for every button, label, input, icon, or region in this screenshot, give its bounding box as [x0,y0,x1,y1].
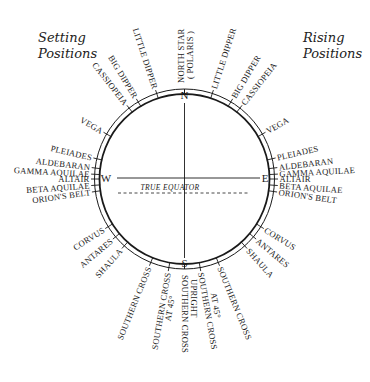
star-label: LITTLE DIPPER [209,27,238,91]
star-label: SOUTHERN CROSS [115,265,154,341]
star-tick [216,257,219,265]
star-tick [149,257,152,265]
star-tick [92,191,101,192]
star-tick [268,168,277,169]
star-tick [199,262,201,271]
star-tick [156,90,159,99]
star-tick [267,158,276,160]
east-letter: E [262,172,269,184]
star-tick [92,168,101,169]
star-tick [91,185,100,186]
star-tick [268,191,277,192]
star-label: VEGA [78,115,105,136]
upright-sublabel: UPRIGHT [189,279,199,318]
west-letter: W [101,172,112,184]
star-compass-diagram: Setting Positions Rising Positions N S W… [0,0,370,382]
star-label: LITTLE DIPPER [131,27,160,91]
star-label-group: VEGA [264,115,291,136]
south-upright-label-group: SOUTHERN CROSS UPRIGHT [180,275,199,353]
polaris-label: ( POLARIS ) [185,31,195,79]
star-tick [93,158,102,160]
southern-cross-upright-label: SOUTHERN CROSS [180,275,190,353]
star-tick [269,185,278,186]
star-tick [211,90,214,99]
compass-rose: N S W E TRUE EQUATOR NORTH STAR ( POLARI… [0,0,370,382]
star-label-group: VEGA [78,115,105,136]
star-tick [168,262,170,271]
star-label-group: LITTLE DIPPER [131,27,160,91]
north-star-label-group: NORTH STAR ( POLARIS ) [176,28,195,83]
star-label-group: SOUTHERN CROSS [115,265,154,341]
true-equator-label: TRUE EQUATOR [140,183,199,192]
star-label-group: SOUTHERN CROSSAT 45° [150,272,181,352]
star-label: VEGA [264,115,291,136]
star-label-group: LITTLE DIPPER [209,27,238,91]
